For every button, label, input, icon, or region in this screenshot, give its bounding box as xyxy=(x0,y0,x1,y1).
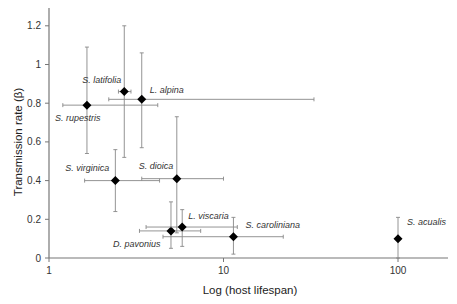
x-tick-label: 100 xyxy=(390,265,407,276)
diamond-marker xyxy=(111,176,120,185)
y-tick-label: 0 xyxy=(35,253,41,264)
point-label: S. rupestris xyxy=(55,113,101,123)
diamond-marker xyxy=(178,223,187,232)
data-point: S. caroliniana xyxy=(163,217,300,254)
x-tick-label: 10 xyxy=(218,265,230,276)
x-tick-label: 1 xyxy=(46,265,52,276)
y-tick-label: 1 xyxy=(35,59,41,70)
data-point: D. pavonius xyxy=(113,202,201,249)
point-label: S. dioica xyxy=(139,161,174,171)
diamond-marker xyxy=(172,174,181,183)
data-point: S. acualis xyxy=(394,217,447,258)
y-tick-label: 0.6 xyxy=(27,136,41,147)
x-axis-label: Log (host lifespan) xyxy=(203,284,298,296)
point-label: D. pavonius xyxy=(113,239,161,249)
axes: 00.20.40.60.811.2110100 xyxy=(27,8,448,276)
scatter-chart: 00.20.40.60.811.2110100 S. rupestrisS. l… xyxy=(0,0,457,304)
diamond-marker xyxy=(394,234,403,243)
diamond-marker xyxy=(166,226,175,235)
data-point: S. latifolia xyxy=(82,26,131,158)
diamond-marker xyxy=(229,232,238,241)
y-tick-label: 0.8 xyxy=(27,98,41,109)
point-label: S. acualis xyxy=(407,217,447,227)
diamond-marker xyxy=(120,87,129,96)
point-label: S. caroliniana xyxy=(245,220,300,230)
data-point: L. alpina xyxy=(109,53,314,148)
point-label: L. alpina xyxy=(150,85,184,95)
diamond-marker xyxy=(137,95,146,104)
y-axis-label: Transmission rate (β) xyxy=(12,88,24,197)
y-tick-label: 0.2 xyxy=(27,214,41,225)
diamond-marker xyxy=(82,101,91,110)
y-tick-label: 0.4 xyxy=(27,175,41,186)
point-label: S. latifolia xyxy=(82,75,121,85)
y-tick-label: 1.2 xyxy=(27,20,41,31)
point-label: S. virginica xyxy=(65,163,109,173)
data-points: S. rupestrisS. latifoliaL. alpinaS. virg… xyxy=(55,26,447,258)
data-point: S. virginica xyxy=(65,150,159,212)
point-label: L. viscaria xyxy=(188,211,229,221)
